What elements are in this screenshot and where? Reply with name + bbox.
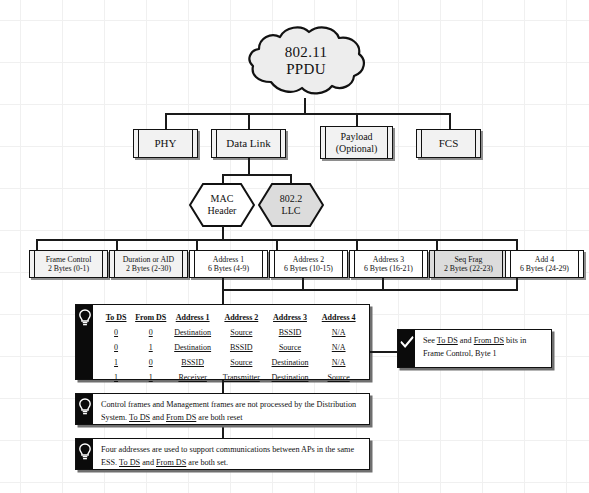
mac-field-frame-control[interactable]: Frame Control 2 Bytes (0-1) <box>29 250 108 278</box>
note-bar <box>76 305 93 379</box>
mac-field-duration-aid-name: Duration or AID <box>123 255 175 264</box>
cloud-line-2: PPDU <box>247 61 365 78</box>
connector-drop-datalink <box>248 113 250 130</box>
cloud-label: 802.11 PPDU <box>247 22 365 79</box>
table-cell: Source <box>314 371 363 386</box>
hexagon-llc-line-1: 802.2 <box>280 193 303 205</box>
hexagon-mac-header-line-2: Header <box>208 205 237 217</box>
mac-field-seq-frag[interactable]: Seq Frag 2 Bytes (22-23) <box>429 250 508 278</box>
note-four-addresses: Four addresses are used to support commu… <box>75 438 370 470</box>
hexagon-mac-header[interactable]: MAC Header <box>189 183 255 227</box>
note-control-seg-4: are both reset <box>196 413 242 422</box>
layer-box-payload[interactable]: Payload (Optional) <box>320 126 393 159</box>
table-cell: Destination <box>266 356 315 371</box>
table-cell: 0 <box>99 326 133 341</box>
table-row: 0 0 Destination Source BSSID N/A <box>99 326 363 341</box>
hexagon-llc-line-2: LLC <box>280 205 303 217</box>
table-cell: 0 <box>99 341 133 356</box>
lightbulb-icon <box>78 443 91 460</box>
check-note-seg-3: From DS <box>474 336 504 345</box>
table-cell: 0 <box>133 356 168 371</box>
table-cell: 1 <box>99 371 133 386</box>
table-cell: N/A <box>314 341 363 356</box>
mac-field-frame-control-name: Frame Control <box>46 255 92 264</box>
check-note-seg-0: See <box>423 336 437 345</box>
note-four-addresses-text: Four addresses are used to support commu… <box>93 439 369 469</box>
connector-drop-fcs <box>449 113 451 130</box>
table-cell: BSSID <box>266 326 315 341</box>
connector-mac-header-stem <box>222 226 224 240</box>
note-four-seg-4: are both set. <box>186 458 228 467</box>
note-control-seg-3: From DS <box>166 413 196 422</box>
mac-field-address-3-size: 6 Bytes (16-21) <box>364 264 413 273</box>
mac-field-address-3[interactable]: Address 3 6 Bytes (16-21) <box>349 250 428 278</box>
connector-hex-bus <box>222 174 292 176</box>
hexagon-mac-header-label: MAC Header <box>208 193 237 217</box>
check-note: See To DS and From DS bits in Frame Cont… <box>397 329 552 368</box>
connector-layer-bus <box>165 113 451 115</box>
layer-box-payload-line-2: (Optional) <box>336 143 378 155</box>
connector-address-table-bus <box>222 289 518 291</box>
table-cell: Source <box>217 326 266 341</box>
mac-field-address-1-name: Address 1 <box>208 255 249 264</box>
table-header-address-1: Address 1 <box>168 311 217 326</box>
table-header-address-3: Address 3 <box>266 311 315 326</box>
layer-box-phy-label: PHY <box>147 137 183 150</box>
table-cell: 1 <box>133 341 168 356</box>
check-note-seg-1: To DS <box>437 336 458 345</box>
note-bar <box>76 394 93 424</box>
table-cell: Receiver <box>168 371 217 386</box>
lightbulb-icon <box>78 398 91 415</box>
layer-box-fcs-label: FCS <box>432 137 466 150</box>
check-note-text: See To DS and From DS bits in Frame Cont… <box>415 330 551 367</box>
note-four-seg-1: To DS <box>119 458 140 467</box>
table-cell: BSSID <box>217 341 266 356</box>
layer-box-phy[interactable]: PHY <box>133 129 198 158</box>
mac-field-duration-aid-size: 2 Bytes (2-30) <box>123 264 175 273</box>
mac-field-duration-aid[interactable]: Duration or AID 2 Bytes (2-30) <box>109 250 188 278</box>
note-control-frames-text: Control frames and Management frames are… <box>93 394 369 424</box>
mac-field-address-2-name: Address 2 <box>284 255 333 264</box>
mac-field-seq-frag-size: 2 Bytes (22-23) <box>444 264 493 273</box>
table-cell: N/A <box>314 356 363 371</box>
table-header-address-2: Address 2 <box>217 311 266 326</box>
hexagon-llc-label: 802.2 LLC <box>280 193 303 217</box>
connector-down-to-table <box>222 289 224 305</box>
mac-field-frame-control-size: 2 Bytes (0-1) <box>46 264 92 273</box>
layer-box-payload-line-1: Payload <box>336 131 378 143</box>
mac-field-add-4-name: Add 4 <box>520 255 569 264</box>
mac-field-address-2[interactable]: Address 2 6 Bytes (10-15) <box>269 250 348 278</box>
table-row: 1 1 Receiver Transmitter Destination Sou… <box>99 371 363 386</box>
layer-box-data-link-label: Data Link <box>219 137 277 150</box>
note-control-frames: Control frames and Management frames are… <box>75 393 370 425</box>
mac-field-add-4[interactable]: Add 4 6 Bytes (24-29) <box>505 250 584 278</box>
connector-note-control-to-note-four <box>222 424 224 439</box>
address-table-note: To DS From DS Address 1 Address 2 Addres… <box>75 304 370 380</box>
table-header-address-4: Address 4 <box>314 311 363 326</box>
layer-box-data-link[interactable]: Data Link <box>211 129 286 158</box>
note-bar <box>76 439 93 469</box>
table-cell: N/A <box>314 326 363 341</box>
table-row: 0 1 Destination BSSID Source N/A <box>99 341 363 356</box>
address-table-body: To DS From DS Address 1 Address 2 Addres… <box>93 305 369 379</box>
table-header-from-ds: From DS <box>133 311 168 326</box>
table-cell: Source <box>266 341 315 356</box>
connector-drop-phy <box>165 113 167 130</box>
table-header-row: To DS From DS Address 1 Address 2 Addres… <box>99 311 363 326</box>
lightbulb-icon <box>78 309 91 326</box>
mac-field-address-3-name: Address 3 <box>364 255 413 264</box>
table-cell: 1 <box>99 356 133 371</box>
diagram-canvas: 802.11 PPDU PHY Data Link Payload (Optio… <box>0 0 589 493</box>
table-cell: Destination <box>168 326 217 341</box>
table-row: 1 0 BSSID Source Destination N/A <box>99 356 363 371</box>
layer-box-fcs[interactable]: FCS <box>416 129 481 158</box>
table-cell: Destination <box>168 341 217 356</box>
mac-field-seq-frag-name: Seq Frag <box>444 255 493 264</box>
table-cell: 0 <box>133 326 168 341</box>
table-cell: BSSID <box>168 356 217 371</box>
note-control-seg-2: and <box>150 413 166 422</box>
table-cell: Source <box>217 356 266 371</box>
mac-field-address-1[interactable]: Address 1 6 Bytes (4-9) <box>189 250 268 278</box>
hexagon-llc[interactable]: 802.2 LLC <box>258 183 324 227</box>
cloud-line-1: 802.11 <box>247 44 365 61</box>
